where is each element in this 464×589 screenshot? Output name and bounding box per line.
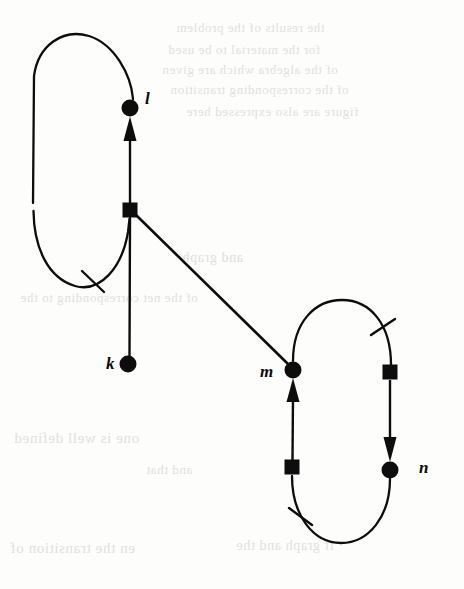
place-l	[122, 100, 139, 117]
tick-mark-right-lower	[289, 508, 312, 525]
place-label-n: n	[419, 459, 428, 476]
place-label-m: m	[260, 363, 273, 380]
petri-net-diagram	[0, 0, 464, 589]
tick-mark-right-upper	[371, 319, 395, 335]
place-label-l: l	[145, 90, 150, 107]
place-m	[285, 362, 302, 379]
arc-t1-to-l	[124, 117, 137, 204]
arrowhead-into-n	[384, 437, 397, 462]
transition-t3	[285, 460, 300, 475]
transition-t1	[123, 203, 138, 218]
scanned-page: the results of the problemfor the materi…	[0, 0, 464, 589]
place-k	[120, 356, 137, 373]
place-label-k: k	[106, 355, 115, 372]
place-n	[382, 462, 399, 479]
arc-n-to-t3	[292, 476, 390, 543]
transition-t2	[383, 365, 398, 380]
arrowhead-into-l	[124, 117, 137, 142]
arc-k-to-t1	[130, 218, 131, 356]
arc-t3-to-m	[287, 378, 300, 460]
arc-t1-to-m	[136, 215, 288, 364]
arc-l-to-t1-loop	[33, 34, 133, 287]
arc-t2-to-n	[384, 380, 397, 462]
arrowhead-into-m	[287, 378, 300, 402]
